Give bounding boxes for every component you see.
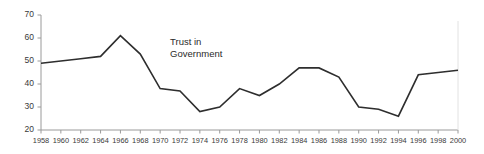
x-axis-tick-label: 1982: [271, 136, 287, 145]
x-axis-tick-label: 1970: [152, 136, 168, 145]
x-axis-tick-label: 1976: [211, 136, 227, 145]
x-axis-tick-label: 1968: [132, 136, 148, 145]
trust-in-government-line-chart: 203040506070 195819601962196419661968197…: [0, 0, 484, 154]
y-axis-tick-label: 40: [25, 78, 35, 88]
y-axis-tick-label: 60: [25, 32, 35, 42]
x-axis-tick-label: 1994: [390, 136, 406, 145]
y-axis-tick-label: 50: [25, 55, 35, 65]
annotation-label-line1: Trust in: [170, 36, 201, 47]
x-axis-tick-label: 1992: [370, 136, 386, 145]
y-axis-tick-label: 20: [25, 124, 35, 134]
x-axis-tick-label: 1988: [331, 136, 347, 145]
x-axis-tick-label: 1990: [350, 136, 366, 145]
x-axis-tick-label: 1980: [251, 136, 267, 145]
series-annotation: Trust inGovernment: [170, 36, 223, 59]
annotation-label-line2: Government: [170, 48, 223, 59]
x-axis: 1958196019621964196619681970197219741976…: [33, 21, 466, 145]
x-axis-tick-label: 2000: [450, 136, 466, 145]
x-axis-tick-label: 1978: [231, 136, 247, 145]
x-axis-tick-label: 1984: [291, 136, 307, 145]
x-axis-tick-label: 1960: [53, 136, 69, 145]
y-axis-tick-label: 70: [25, 9, 35, 19]
x-axis-tick-label: 1998: [430, 136, 446, 145]
chart-container: 203040506070 195819601962196419661968197…: [0, 0, 484, 154]
y-axis: 203040506070: [25, 9, 41, 134]
x-axis-tick-label: 1966: [112, 136, 128, 145]
x-axis-tick-label: 1958: [33, 136, 49, 145]
series-line-trust-in-government: [41, 36, 458, 117]
x-axis-tick-label: 1986: [311, 136, 327, 145]
y-axis-tick-label: 30: [25, 101, 35, 111]
data-series-group: [41, 36, 458, 117]
x-axis-tick-label: 1962: [72, 136, 88, 145]
x-axis-tick-label: 1972: [172, 136, 188, 145]
x-axis-tick-label: 1996: [410, 136, 426, 145]
x-axis-tick-label: 1974: [192, 136, 208, 145]
x-axis-tick-label: 1964: [92, 136, 108, 145]
